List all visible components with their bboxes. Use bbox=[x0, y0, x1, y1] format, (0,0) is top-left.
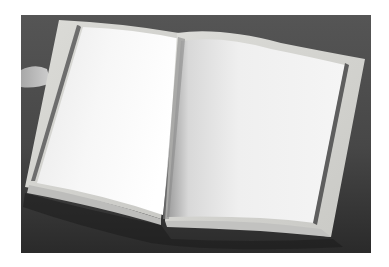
book-photo bbox=[21, 15, 371, 253]
image-frame: Open blank book with empty pages on a da… bbox=[0, 0, 389, 267]
book-illustration bbox=[21, 15, 371, 253]
right-page bbox=[167, 39, 345, 223]
